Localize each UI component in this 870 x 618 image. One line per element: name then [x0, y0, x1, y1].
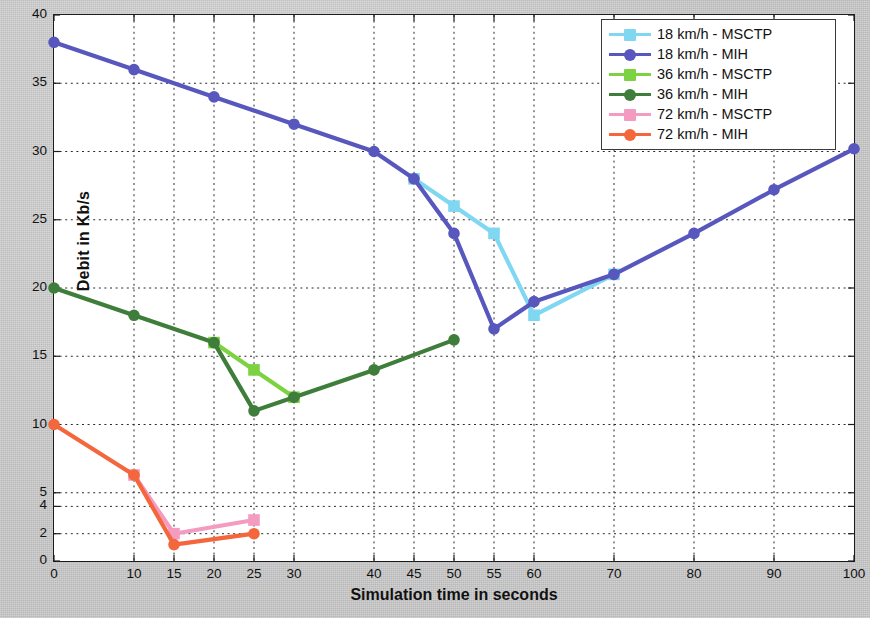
- legend-label: 72 km/h - MSCTP: [651, 106, 772, 122]
- series-5: [49, 420, 259, 550]
- legend-swatch-icon: [609, 26, 651, 42]
- legend-item-0: 18 km/h - MSCTP: [609, 24, 829, 44]
- series-2: [209, 338, 299, 403]
- x-tick-100: 100: [834, 566, 870, 581]
- y-tick-15: 15: [7, 347, 47, 362]
- legend-label: 36 km/h - MIH: [651, 86, 748, 102]
- legend-label: 18 km/h - MSCTP: [651, 26, 772, 42]
- x-tick-10: 10: [114, 566, 154, 581]
- y-tick-4: 4: [7, 497, 47, 512]
- legend-swatch-icon: [609, 106, 651, 122]
- x-axis-title: Simulation time in seconds: [53, 586, 855, 604]
- legend: 18 km/h - MSCTP18 km/h - MIH36 km/h - MS…: [601, 19, 836, 150]
- legend-swatch-icon: [609, 66, 651, 82]
- series-0: [409, 174, 619, 320]
- x-tick-60: 60: [514, 566, 554, 581]
- y-tick-20: 20: [7, 279, 47, 294]
- y-tick-2: 2: [7, 525, 47, 540]
- x-tick-55: 55: [474, 566, 514, 581]
- legend-item-1: 18 km/h - MIH: [609, 44, 829, 64]
- x-tick-40: 40: [354, 566, 394, 581]
- y-tick-10: 10: [7, 416, 47, 431]
- x-tick-0: 0: [34, 566, 74, 581]
- y-tick-35: 35: [7, 74, 47, 89]
- legend-swatch-icon: [609, 126, 651, 142]
- x-tick-20: 20: [194, 566, 234, 581]
- y-axis-title: Debit in Kb/s: [75, 151, 93, 331]
- x-tick-30: 30: [274, 566, 314, 581]
- x-tick-15: 15: [154, 566, 194, 581]
- legend-label: 72 km/h - MIH: [651, 126, 748, 142]
- legend-item-4: 72 km/h - MSCTP: [609, 104, 829, 124]
- y-tick-25: 25: [7, 211, 47, 226]
- x-tick-50: 50: [434, 566, 474, 581]
- legend-item-5: 72 km/h - MIH: [609, 124, 829, 144]
- legend-item-2: 36 km/h - MSCTP: [609, 64, 829, 84]
- series-3: [49, 283, 459, 416]
- x-tick-45: 45: [394, 566, 434, 581]
- figure: 010152025304045505560708090100 024510152…: [0, 0, 870, 618]
- x-tick-70: 70: [594, 566, 634, 581]
- legend-swatch-icon: [609, 86, 651, 102]
- legend-label: 18 km/h - MIH: [651, 46, 748, 62]
- legend-item-3: 36 km/h - MIH: [609, 84, 829, 104]
- legend-label: 36 km/h - MSCTP: [651, 66, 772, 82]
- y-tick-0: 0: [7, 552, 47, 567]
- y-tick-40: 40: [7, 6, 47, 21]
- x-tick-90: 90: [754, 566, 794, 581]
- x-tick-25: 25: [234, 566, 274, 581]
- legend-swatch-icon: [609, 46, 651, 62]
- x-tick-80: 80: [674, 566, 714, 581]
- y-tick-30: 30: [7, 143, 47, 158]
- y-tick-5: 5: [7, 484, 47, 499]
